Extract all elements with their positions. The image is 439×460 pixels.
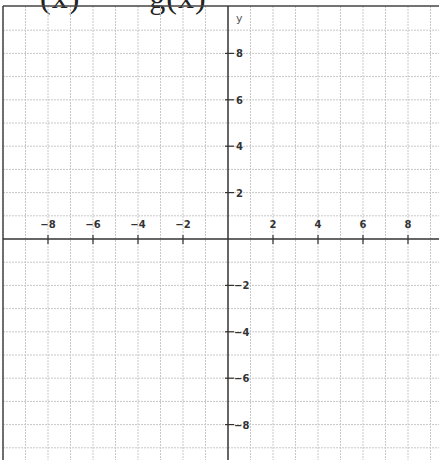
x-tick-label: 6 [360,219,367,230]
x-tick-label: 2 [270,219,277,230]
y-tick-label: 6 [236,95,243,106]
coordinate-plane: −8−6−4−224688642−2−4−6−8 y [0,0,439,460]
axes [3,6,439,460]
y-tick-label: −4 [234,327,249,338]
y-tick-label: 4 [236,141,243,152]
x-tick-label: −8 [40,219,55,230]
x-tick-label: −6 [85,219,100,230]
x-tick-label: 4 [315,219,322,230]
y-tick-label: 8 [236,48,243,59]
x-tick-label: −4 [130,219,145,230]
y-tick-label: −6 [234,373,249,384]
y-axis-label: y [236,12,243,25]
y-tick-label: 2 [236,188,243,199]
y-tick-label: −2 [234,280,249,291]
y-tick-label: −8 [234,420,249,431]
x-tick-label: −2 [175,219,190,230]
x-tick-label: 8 [405,219,412,230]
grid-lines [3,6,439,460]
